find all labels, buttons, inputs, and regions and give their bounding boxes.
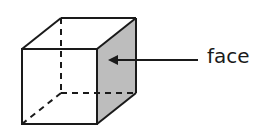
- face-label: face: [207, 44, 250, 68]
